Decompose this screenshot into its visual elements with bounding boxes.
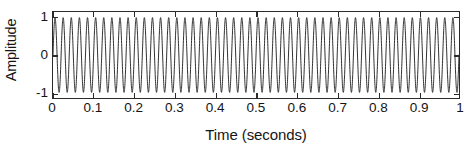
x-tick-label: 0.7 <box>328 101 347 115</box>
x-tick-mark <box>216 93 217 98</box>
x-tick-mark <box>256 93 257 98</box>
y-tick-label: 0 <box>22 48 48 62</box>
y-tick-label: 1 <box>22 10 48 24</box>
x-tick-label: 0.9 <box>410 101 429 115</box>
x-axis-ticks: 00.10.20.30.40.50.60.70.80.91 <box>52 101 460 121</box>
y-tick-mark <box>53 17 58 18</box>
x-tick-mark <box>379 93 380 98</box>
y-axis-title: Amplitude <box>0 0 22 100</box>
x-tick-mark <box>297 93 298 98</box>
x-axis-title: Time (seconds) <box>52 126 460 143</box>
x-tick-mark <box>134 12 135 17</box>
y-tick-mark <box>454 17 459 18</box>
figure-canvas: Amplitude -101 00.10.20.30.40.50.60.70.8… <box>0 0 472 159</box>
x-tick-mark <box>338 93 339 98</box>
x-tick-label: 0 <box>48 101 56 115</box>
x-tick-mark <box>93 12 94 17</box>
x-tick-mark <box>256 12 257 17</box>
y-tick-mark <box>454 94 459 95</box>
waveform-line <box>53 12 459 98</box>
x-tick-mark <box>175 93 176 98</box>
x-tick-mark <box>216 12 217 17</box>
x-tick-mark <box>338 12 339 17</box>
x-tick-label: 0.8 <box>369 101 388 115</box>
x-tick-label: 0.2 <box>124 101 143 115</box>
y-tick-label: -1 <box>22 87 48 101</box>
x-tick-mark <box>93 93 94 98</box>
x-tick-mark <box>175 12 176 17</box>
y-tick-mark <box>454 55 459 56</box>
x-tick-label: 0.3 <box>165 101 184 115</box>
y-axis-ticks: -101 <box>22 0 48 159</box>
x-tick-mark <box>297 12 298 17</box>
y-tick-mark <box>53 55 58 56</box>
x-tick-label: 0.6 <box>287 101 306 115</box>
y-axis-title-label: Amplitude <box>3 19 19 82</box>
x-tick-mark <box>420 12 421 17</box>
x-tick-label: 1 <box>456 101 464 115</box>
x-tick-label: 0.4 <box>206 101 225 115</box>
x-axis-title-label: Time (seconds) <box>205 126 306 143</box>
x-tick-mark <box>379 12 380 17</box>
x-tick-mark <box>420 93 421 98</box>
y-tick-mark <box>53 94 58 95</box>
x-tick-mark <box>134 93 135 98</box>
x-tick-label: 0.5 <box>247 101 266 115</box>
x-tick-label: 0.1 <box>83 101 102 115</box>
plot-area <box>52 11 460 99</box>
